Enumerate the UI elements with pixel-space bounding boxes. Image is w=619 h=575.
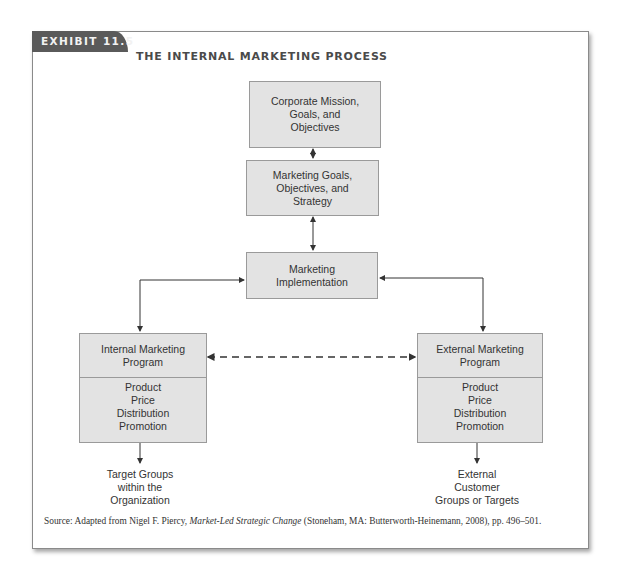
- node-marketing-implementation-label: Marketing Implementation: [276, 263, 348, 289]
- node-marketing-goals-label: Marketing Goals, Objectives, and Strateg…: [273, 169, 352, 208]
- external-program-header: External Marketing Program: [418, 334, 542, 378]
- node-internal-marketing-program: Internal Marketing Program Product Price…: [79, 333, 207, 443]
- source-book-title: Market-Led Strategic Change: [189, 516, 301, 526]
- source-citation: Source: Adapted from Nigel F. Piercy, Ma…: [44, 516, 541, 526]
- internal-program-header: Internal Marketing Program: [80, 334, 206, 378]
- external-program-mix: Product Price Distribution Promotion: [418, 378, 542, 442]
- source-suffix: (Stoneham, MA: Butterworth-Heinemann, 20…: [301, 516, 541, 526]
- node-marketing-goals: Marketing Goals, Objectives, and Strateg…: [246, 160, 379, 216]
- external-customer-groups: External Customer Groups or Targets: [422, 468, 532, 507]
- arrow-implementation-external: [380, 278, 483, 331]
- internal-target-groups: Target Groups within the Organization: [90, 468, 190, 507]
- source-prefix: Source: Adapted from Nigel F. Piercy,: [44, 516, 189, 526]
- arrow-implementation-internal: [140, 280, 244, 331]
- node-external-marketing-program: External Marketing Program Product Price…: [417, 333, 543, 443]
- external-program-mix-label: Product Price Distribution Promotion: [454, 381, 507, 433]
- node-corporate-mission-label: Corporate Mission, Goals, and Objectives: [271, 95, 359, 134]
- external-program-title: External Marketing Program: [436, 343, 524, 369]
- internal-program-mix-label: Product Price Distribution Promotion: [117, 381, 170, 433]
- node-corporate-mission: Corporate Mission, Goals, and Objectives: [249, 81, 381, 148]
- internal-program-mix: Product Price Distribution Promotion: [80, 378, 206, 442]
- node-marketing-implementation: Marketing Implementation: [246, 252, 378, 299]
- internal-program-title: Internal Marketing Program: [101, 343, 185, 369]
